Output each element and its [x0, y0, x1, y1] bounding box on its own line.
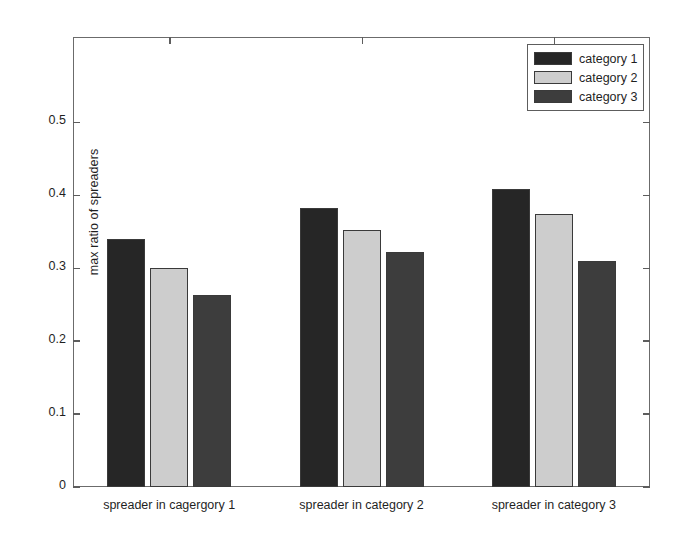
bar-group-2-series-1 [300, 208, 338, 487]
y-tick-label: 0 [26, 478, 66, 492]
bar-group-1-series-1 [107, 239, 145, 487]
legend-item-2: category 2 [534, 69, 637, 86]
y-tick-label: 0.5 [26, 113, 66, 127]
legend-swatch-3 [534, 90, 572, 103]
bar-chart-figure: max ratio of spreaders 00.10.20.30.40.5 … [0, 0, 685, 549]
y-tick-mark-right [643, 340, 650, 341]
y-tick-label: 0.2 [26, 332, 66, 346]
legend-label-3: category 3 [579, 90, 637, 104]
y-tick-mark-right [643, 486, 650, 487]
y-tick-mark-right [643, 413, 650, 414]
x-tick-label-2: spreader in category 3 [492, 498, 616, 512]
x-tick-mark-top-0 [169, 37, 170, 44]
legend-label-1: category 1 [579, 52, 637, 66]
legend-label-2: category 2 [579, 71, 637, 85]
bar-group-1-series-3 [193, 295, 231, 487]
y-tick-mark [73, 413, 80, 414]
chart-legend: category 1category 2category 3 [527, 44, 644, 111]
y-tick-mark [73, 268, 80, 269]
bar-group-3-series-3 [578, 261, 616, 487]
x-tick-mark-top-1 [362, 37, 363, 44]
legend-item-3: category 3 [534, 88, 637, 105]
y-axis-title: max ratio of spreaders [87, 112, 101, 312]
legend-item-1: category 1 [534, 50, 637, 67]
y-tick-mark [73, 195, 80, 196]
x-tick-label-1: spreader in category 2 [299, 498, 423, 512]
y-tick-mark-right [643, 268, 650, 269]
bar-group-3-series-1 [492, 189, 530, 487]
y-tick-mark [73, 122, 80, 123]
y-tick-mark [73, 486, 80, 487]
bar-group-1-series-2 [150, 268, 188, 487]
bar-group-2-series-2 [343, 230, 381, 487]
y-tick-mark-right [643, 195, 650, 196]
x-tick-label-0: spreader in cagergory 1 [103, 498, 235, 512]
bar-group-2-series-3 [386, 252, 424, 487]
legend-swatch-2 [534, 71, 572, 84]
y-tick-label: 0.4 [26, 186, 66, 200]
x-tick-mark-top-2 [554, 37, 555, 44]
y-tick-label: 0.1 [26, 405, 66, 419]
bar-group-3-series-2 [535, 214, 573, 487]
legend-swatch-1 [534, 52, 572, 65]
y-tick-mark-right [643, 122, 650, 123]
y-tick-mark [73, 340, 80, 341]
y-tick-label: 0.3 [26, 259, 66, 273]
